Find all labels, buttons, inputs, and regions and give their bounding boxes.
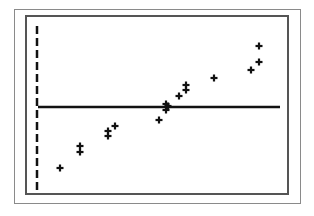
plus-marker: [57, 165, 64, 172]
plus-marker: [256, 43, 263, 50]
plus-marker: [248, 67, 255, 74]
plus-marker: [77, 143, 84, 150]
plus-marker: [156, 117, 163, 124]
scatter-plot: [0, 0, 314, 216]
plus-marker: [256, 59, 263, 66]
plus-marker: [77, 149, 84, 156]
plus-marker: [183, 87, 190, 94]
plus-marker: [176, 93, 183, 100]
plus-marker: [211, 75, 218, 82]
plus-marker: [112, 123, 119, 130]
plus-marker: [105, 133, 112, 140]
